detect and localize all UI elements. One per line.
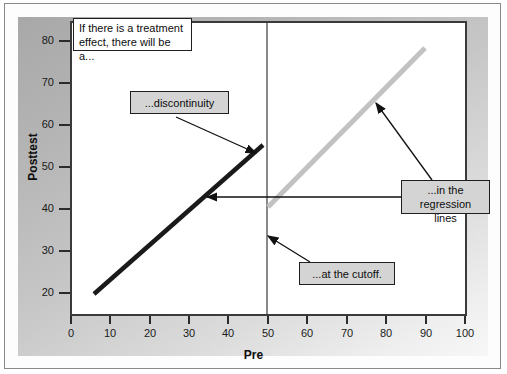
y-tick-mark <box>59 292 70 294</box>
x-tick-label: 50 <box>254 327 282 339</box>
callout-regression-lines[interactable]: ...in the regression lines <box>401 180 490 214</box>
callout-cutoff-label: ...at the cutoff. <box>312 268 382 280</box>
x-axis-title: Pre <box>0 348 507 362</box>
y-tick-mark <box>59 250 70 252</box>
x-tick-mark <box>149 316 151 324</box>
x-tick-label: 0 <box>57 327 85 339</box>
x-tick-label: 70 <box>333 327 361 339</box>
x-tick-label: 60 <box>293 327 321 339</box>
y-tick-mark <box>59 166 70 168</box>
y-tick-mark <box>59 124 70 126</box>
x-tick-mark <box>109 316 111 324</box>
x-tick-label: 40 <box>214 327 242 339</box>
callout-discontinuity[interactable]: ...discontinuity <box>130 91 229 114</box>
x-tick-mark <box>464 316 466 324</box>
y-axis-title: Posttest <box>26 122 40 192</box>
x-tick-mark <box>306 316 308 324</box>
plot-right-border <box>465 21 467 316</box>
x-tick-label: 20 <box>136 327 164 339</box>
x-tick-mark <box>70 316 72 324</box>
x-tick-mark <box>188 316 190 324</box>
callout-regression-lines-line1: ...in the <box>427 184 463 196</box>
x-tick-label: 90 <box>412 327 440 339</box>
x-tick-mark <box>267 316 269 324</box>
y-tick-mark <box>59 82 70 84</box>
regression-discontinuity-figure: 80 70 60 50 40 30 20 0 10 20 30 40 50 60… <box>0 0 507 374</box>
y-tick-mark <box>59 208 70 210</box>
y-tick-label: 70 <box>28 76 54 88</box>
x-tick-label: 30 <box>175 327 203 339</box>
x-tick-mark <box>227 316 229 324</box>
callout-cutoff[interactable]: ...at the cutoff. <box>299 262 395 285</box>
x-tick-mark <box>385 316 387 324</box>
x-tick-label: 10 <box>96 327 124 339</box>
x-tick-label: 80 <box>372 327 400 339</box>
y-tick-label: 20 <box>28 286 54 298</box>
callout-discontinuity-label: ...discontinuity <box>145 97 215 109</box>
y-tick-label: 80 <box>28 34 54 46</box>
y-tick-label: 40 <box>28 202 54 214</box>
x-tick-label: 100 <box>451 327 479 339</box>
y-tick-mark <box>59 40 70 42</box>
x-tick-mark <box>425 316 427 324</box>
callout-treatment-effect-line1: If there is a treatment <box>79 22 183 34</box>
plot-area <box>70 21 467 316</box>
callout-treatment-effect[interactable]: If there is a treatment effect, there wi… <box>73 18 192 51</box>
x-tick-mark <box>346 316 348 324</box>
y-tick-label: 30 <box>28 244 54 256</box>
